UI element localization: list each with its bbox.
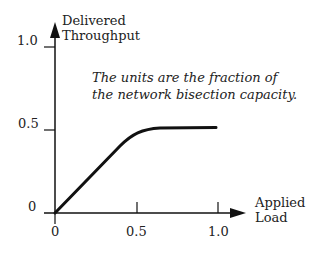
x-axis-label: Applied Load (255, 195, 305, 225)
x-tick-label-05: 0.5 (126, 224, 147, 239)
y-axis-label: Delivered Throughput (62, 13, 140, 43)
y-tick-label-0: 0 (28, 199, 36, 214)
x-tick-label-0: 0 (51, 224, 59, 239)
y-axis-label-line1: Delivered (62, 13, 140, 28)
annotation-line1: The units are the fraction of (92, 69, 297, 86)
throughput-curve (55, 128, 216, 214)
x-tick-label-10: 1.0 (208, 224, 229, 239)
x-axis-label-line1: Applied (255, 195, 305, 210)
annotation-line2: the network bisection capacity. (92, 86, 297, 103)
y-tick-label-10: 1.0 (17, 33, 38, 48)
y-axis-arrow-icon (50, 22, 60, 38)
units-annotation: The units are the fraction of the networ… (92, 69, 297, 103)
x-axis-label-line2: Load (255, 210, 305, 225)
y-axis-label-line2: Throughput (62, 28, 140, 43)
y-tick-label-05: 0.5 (18, 116, 39, 131)
chart-canvas (0, 0, 315, 269)
x-axis-arrow-icon (230, 208, 246, 218)
